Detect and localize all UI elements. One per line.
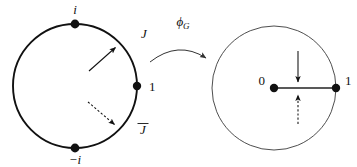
label-one-right: 1 <box>345 73 352 88</box>
mapping-arrow-label: ϕG <box>176 14 190 31</box>
source-circle-outline <box>13 24 137 148</box>
circle-mapping-diagram: i −i 1 J J ϕG <box>0 0 357 167</box>
label-arc-J-bar-base: J <box>140 122 147 137</box>
point-dot-i <box>71 20 80 29</box>
source-solid-vector <box>89 48 116 72</box>
label-i: i <box>73 2 77 17</box>
right-circle-group: 0 1 <box>212 26 352 150</box>
source-dashed-vector <box>88 102 115 125</box>
label-arc-J: J <box>141 26 148 41</box>
label-zero: 0 <box>259 73 266 88</box>
label-minus-i: −i <box>69 152 82 167</box>
mapping-arrow-label-subscript: G <box>183 21 190 31</box>
figure-container: i −i 1 J J ϕG <box>0 0 357 167</box>
point-dot-one-right <box>332 84 340 92</box>
label-one-left: 1 <box>149 79 156 94</box>
label-arc-J-bar: J <box>138 122 149 137</box>
point-dot-one-left <box>133 82 141 90</box>
left-circle-group: i −i 1 J J <box>13 2 156 167</box>
point-dot-zero <box>270 84 278 92</box>
mapping-arrow-group: ϕG <box>150 14 206 62</box>
mapping-arc <box>150 50 206 62</box>
